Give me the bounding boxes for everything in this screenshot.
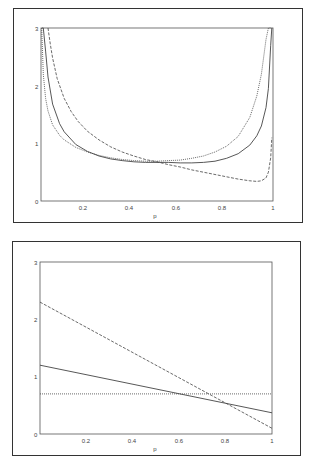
chart-2: 0 1 2 3 0.2 0.4 0.6 0.8 1 p [34, 260, 274, 452]
x-tick-label: 1 [270, 438, 274, 444]
y-tick-label: 1 [35, 141, 39, 147]
charts-canvas: 0 1 2 3 0.2 0.4 0.6 0.8 1 p 0 1 2 3 0.2 … [0, 0, 310, 468]
series-line-dashed [48, 28, 272, 181]
x-tick-label: 0.2 [79, 205, 88, 211]
chart-1: 0 1 2 3 0.2 0.4 0.6 0.8 1 p [35, 26, 275, 219]
x-tick-label: 1 [271, 205, 275, 211]
x-tick-label: 0.2 [82, 438, 91, 444]
x-axis-label: p [153, 446, 157, 452]
x-axis-label: p [153, 213, 157, 219]
series-line-dashed [40, 302, 272, 428]
x-tick-label: 0.8 [221, 438, 230, 444]
chart-2-series [40, 302, 272, 428]
series-line-solid [40, 365, 272, 413]
x-tick-label: 0.4 [125, 205, 134, 211]
x-tick-label: 0.4 [128, 438, 137, 444]
x-tick-label: 0.6 [175, 438, 184, 444]
series-line-solid [42, 28, 272, 163]
chart-1-plot-border [41, 28, 273, 201]
y-tick-label: 1 [34, 374, 38, 380]
series-line-dotted [42, 28, 271, 161]
y-tick-label: 0 [34, 432, 38, 438]
y-tick-label: 3 [35, 26, 39, 32]
y-tick-label: 2 [35, 84, 39, 90]
chart-1-series [42, 28, 272, 181]
y-tick-label: 2 [34, 317, 38, 323]
y-tick-label: 3 [34, 260, 38, 266]
x-tick-label: 0.8 [218, 205, 227, 211]
x-tick-label: 0.6 [172, 205, 181, 211]
y-tick-label: 0 [35, 199, 39, 205]
chart-2-plot-border [40, 262, 272, 434]
